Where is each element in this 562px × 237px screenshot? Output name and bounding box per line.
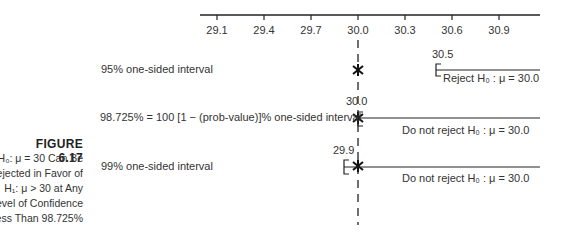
tick-label: 30.3 — [394, 24, 415, 36]
tick-label: 29.7 — [300, 24, 321, 36]
caption-line: H₁: μ > 30 at Any — [0, 181, 83, 196]
interval-label-98725: 98.725% = 100 [1 − (prob-value)]% one-si… — [100, 111, 361, 123]
interval-label-99: 99% one-sided interval — [101, 160, 213, 172]
lower-bound-label-99: 29.9 — [333, 144, 354, 156]
decision-text-95: Reject H₀ : μ = 30.0 — [443, 72, 539, 84]
lower-bound-label-98725: 30.0 — [346, 95, 367, 107]
caption-line: Rejected in Favor of — [0, 166, 83, 181]
tick-label: 30.9 — [488, 24, 509, 36]
interval-label-95: 95% one-sided interval — [101, 63, 213, 75]
point-estimate-star-icon — [353, 160, 363, 172]
point-estimate-star-icon — [353, 64, 363, 76]
figure-caption: H₀: μ = 30 Can Be Rejected in Favor of H… — [0, 151, 83, 226]
caption-line: Level of Confidence — [0, 196, 83, 211]
decision-text-98725: Do not reject H₀ : μ = 30.0 — [402, 124, 529, 136]
axis-ticks — [217, 15, 499, 20]
caption-line: H₀: μ = 30 Can Be — [0, 151, 83, 166]
decision-text-99: Do not reject H₀ : μ = 30.0 — [402, 172, 529, 184]
tick-label: 29.1 — [206, 24, 227, 36]
tick-label: 29.4 — [253, 24, 274, 36]
tick-label: 30.6 — [441, 24, 462, 36]
tick-label: 30.0 — [347, 24, 368, 36]
lower-bound-label-95: 30.5 — [432, 48, 453, 60]
caption-line: Less Than 98.725% — [0, 211, 83, 226]
